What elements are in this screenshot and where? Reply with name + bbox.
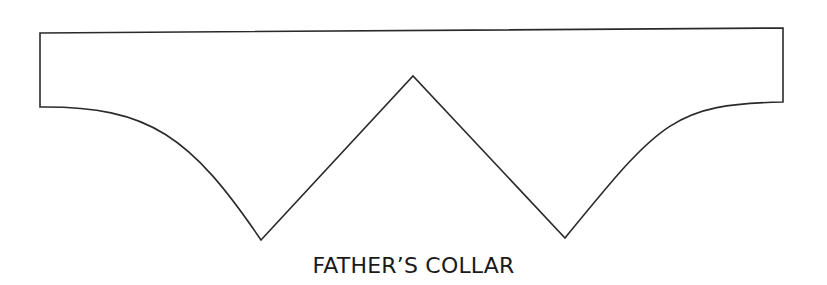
collar-pattern [0, 0, 827, 285]
collar-outline [40, 28, 783, 240]
diagram-caption: FATHER’S COLLAR [0, 253, 827, 279]
